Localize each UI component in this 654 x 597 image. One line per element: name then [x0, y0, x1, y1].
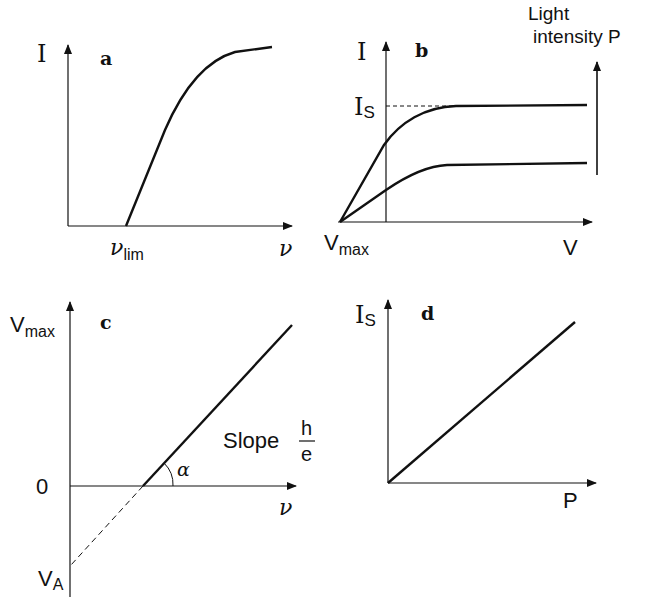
is-letter: I	[354, 93, 363, 121]
origin-zero-label: 0	[36, 474, 48, 499]
panel-d-y-label: IS	[355, 301, 376, 330]
saturation-current-label: IS	[354, 93, 375, 122]
panel-d: IS d P	[355, 300, 596, 513]
stopping-voltage-label: Vmax	[324, 230, 369, 258]
angle-alpha-arc	[164, 463, 173, 486]
panel-d-line	[388, 322, 575, 483]
is-letter: I	[355, 301, 364, 329]
v-letter: V	[38, 566, 53, 591]
panel-c-extrapolation-dashed	[71, 486, 143, 565]
intercept-va-label: VA	[38, 566, 64, 593]
a-subscript: A	[53, 576, 64, 593]
panel-c-line	[143, 325, 292, 486]
slope-numerator: h	[301, 417, 312, 439]
panel-c: α Vmax c 0 ν VA Slope h e	[10, 302, 315, 597]
panel-a-curve	[126, 47, 272, 226]
angle-alpha-label: α	[177, 458, 190, 480]
panel-c-label: c	[100, 311, 112, 333]
max-subscript: max	[25, 323, 55, 340]
max-subscript: max	[339, 241, 369, 258]
slope-denominator: e	[301, 443, 312, 465]
panel-d-x-label: P	[563, 488, 578, 513]
lim-subscript: lim	[123, 246, 143, 263]
panel-a-x-label: ν	[279, 236, 292, 261]
panel-b-y-label: I	[357, 38, 366, 66]
slope-text: Slope	[223, 428, 279, 453]
panel-a-y-label: I	[37, 40, 46, 68]
panel-a-threshold-label: νlim	[110, 235, 144, 263]
panel-b-x-label: V	[563, 235, 578, 260]
panel-b-label: b	[415, 39, 428, 61]
nu-symbol: ν	[110, 235, 123, 260]
v-letter: V	[10, 312, 25, 337]
light-intensity-label-line1: Light	[528, 3, 570, 24]
panel-c-y-label: Vmax	[10, 312, 55, 340]
panel-a: I a ν νlim	[37, 40, 292, 263]
panel-a-label: a	[100, 47, 112, 69]
s-subscript: S	[363, 103, 374, 122]
s-subscript: S	[364, 311, 375, 330]
photoelectric-figure: I a ν νlim I b IS Vmax V Light intensity…	[0, 0, 654, 597]
panel-b: I b IS Vmax V Light intensity P	[324, 3, 621, 260]
light-intensity-label-line2: intensity P	[533, 26, 621, 47]
panel-c-x-label: ν	[279, 495, 292, 520]
panel-b-curve-low-intensity	[340, 163, 587, 222]
v-letter: V	[324, 230, 339, 255]
panel-d-label: d	[421, 302, 434, 324]
